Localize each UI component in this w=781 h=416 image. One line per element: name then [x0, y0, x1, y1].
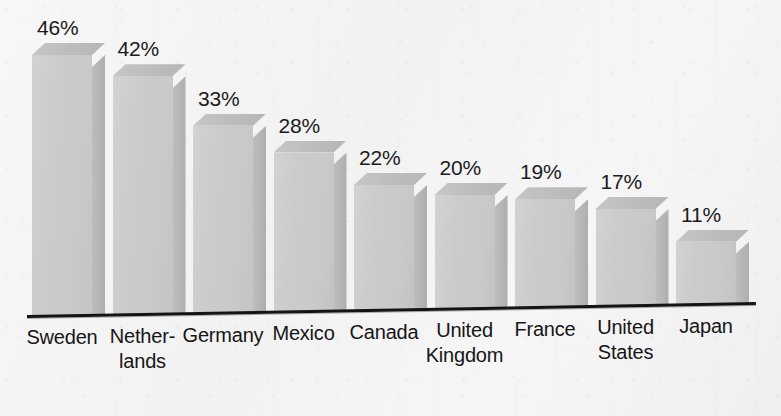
value-label: 22%	[359, 146, 400, 170]
bar-front-face	[596, 209, 656, 305]
bar-side-face	[495, 195, 508, 308]
bar-side-face	[334, 153, 347, 311]
category-label-line1: Nether-	[110, 325, 175, 347]
category-label-line1: Sweden	[26, 326, 97, 348]
bar-side-face	[414, 185, 427, 310]
category-label-line2: States	[578, 340, 674, 365]
bar-japan	[676, 230, 749, 304]
bar-germany	[193, 114, 266, 313]
category-label-line1: Japan	[679, 315, 733, 337]
category-label-line2: Kingdom	[417, 343, 513, 368]
bar-top-face	[676, 230, 749, 242]
category-label-line1: Mexico	[272, 322, 334, 344]
bar-top-face	[515, 187, 588, 199]
bar-france	[515, 187, 588, 307]
bar-front-face	[113, 76, 173, 314]
value-label: 17%	[601, 170, 642, 194]
value-label: 42%	[118, 37, 159, 61]
bar-top-face	[193, 114, 266, 126]
category-label-line1: Germany	[183, 324, 264, 346]
value-label: 28%	[279, 114, 320, 138]
bar-top-face	[596, 197, 669, 209]
bar-top-face	[435, 183, 508, 195]
value-label: 20%	[440, 156, 481, 180]
bar-front-face	[354, 185, 414, 310]
category-label-line1: United	[597, 316, 654, 338]
bar-top-face	[113, 64, 186, 76]
bar-side-face	[173, 76, 186, 314]
chart-page: 46%Sweden42%Nether-lands33%Germany28%Mex…	[0, 0, 781, 416]
category-label-japan: Japan	[658, 314, 754, 339]
value-label: 46%	[37, 16, 78, 40]
bar-top-face	[32, 43, 105, 55]
bar-front-face	[193, 126, 253, 313]
bar-side-face	[656, 209, 669, 305]
bar-top-face	[274, 141, 347, 153]
bar-side-face	[92, 55, 105, 315]
bar-united-states	[596, 197, 669, 305]
bar-chart-plot-area: 46%Sweden42%Nether-lands33%Germany28%Mex…	[0, 0, 781, 416]
category-label-line1: France	[514, 318, 575, 340]
bar-top-face	[354, 173, 427, 185]
value-label: 19%	[520, 160, 561, 184]
bar-side-face	[575, 199, 588, 307]
bar-united-kingdom	[435, 183, 508, 308]
value-label: 33%	[198, 87, 239, 111]
category-label-line1: Canada	[350, 321, 419, 343]
bar-front-face	[32, 55, 92, 315]
category-label-line2: lands	[95, 349, 191, 374]
category-label-line1: United	[436, 319, 493, 341]
bar-canada	[354, 173, 427, 310]
bar-mexico	[274, 141, 347, 311]
bar-front-face	[274, 153, 334, 311]
bar-sweden	[32, 43, 105, 315]
bar-front-face	[435, 195, 495, 308]
bar-side-face	[736, 242, 749, 304]
bar-netherlands	[113, 64, 186, 314]
bar-side-face	[253, 126, 266, 313]
bar-front-face	[515, 199, 575, 307]
value-label: 11%	[681, 203, 721, 227]
bar-front-face	[676, 242, 736, 304]
